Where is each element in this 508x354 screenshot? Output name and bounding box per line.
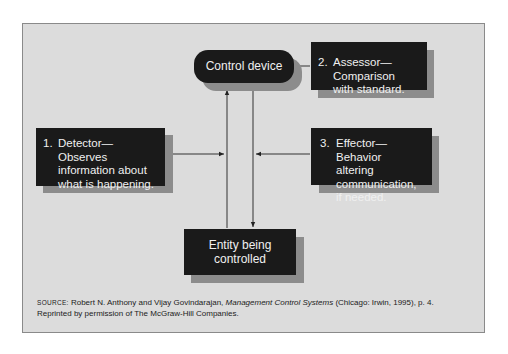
source-title: Management Control Systems — [226, 298, 334, 307]
assessor-line2: with standard. — [333, 83, 423, 97]
control-device-label: Control device — [206, 60, 283, 74]
source-note: Source: Robert N. Anthony and Vijay Govi… — [37, 297, 477, 319]
entity-line1: Entity being — [209, 238, 272, 252]
control-device-box: Control device — [194, 50, 294, 83]
effector-line1: Effector—Behavior — [336, 137, 428, 164]
assessor-box: 2. Assessor—Comparison with standard. — [311, 42, 427, 90]
effector-line2: altering communication, — [336, 164, 428, 191]
detector-line2: information about — [58, 164, 161, 178]
source-authors: Robert N. Anthony and Vijay Govindarajan… — [69, 298, 226, 307]
detector-box: 1. Detector—Observes information about w… — [36, 128, 165, 186]
entity-line2: controlled — [214, 252, 266, 266]
source-label: Source: — [37, 299, 69, 306]
assessor-line1: Assessor—Comparison — [333, 56, 423, 83]
source-permission: Reprinted by permission of The McGraw-Hi… — [37, 308, 477, 319]
assessor-number: 2. — [318, 56, 328, 70]
effector-box: 3. Effector—Behavior altering communicat… — [311, 128, 432, 185]
entity-box: Entity being controlled — [184, 229, 296, 275]
detector-line1: Detector—Observes — [58, 137, 161, 164]
detector-line3: what is happening. — [58, 178, 161, 192]
effector-line3: if needed. — [336, 191, 428, 205]
source-publisher: (Chicago: Irwin, 1995), p. 4. — [333, 298, 434, 307]
detector-number: 1. — [43, 137, 53, 151]
effector-number: 3. — [320, 137, 330, 151]
